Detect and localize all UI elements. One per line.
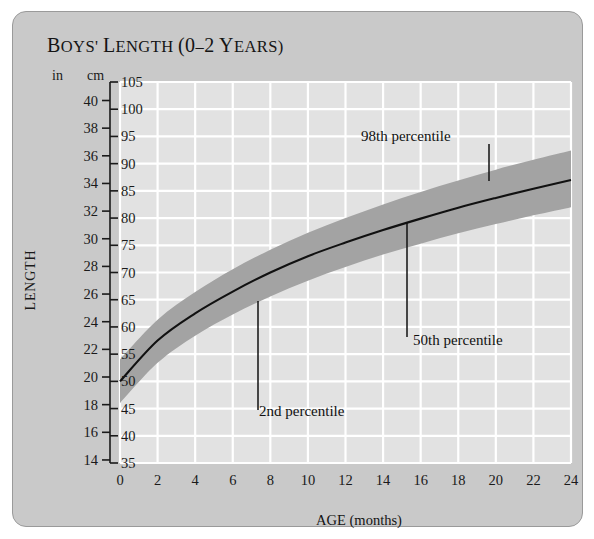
y-tick-inches: 36 bbox=[84, 148, 99, 164]
y-tick-cm: 60 bbox=[121, 319, 136, 335]
y-tick-cm: 80 bbox=[121, 210, 136, 226]
y-tick-inches: 20 bbox=[84, 369, 99, 385]
x-axis-ticks: 024681012141618202224 bbox=[116, 472, 579, 488]
y-tick-cm: 105 bbox=[121, 74, 143, 90]
y-tick-inches: 22 bbox=[84, 341, 99, 357]
y-tick-inches: 24 bbox=[84, 314, 99, 330]
y-tick-cm: 40 bbox=[121, 428, 136, 444]
growth-chart: 1051009590858075706560555045403540383634… bbox=[13, 12, 584, 528]
y-tick-cm: 45 bbox=[121, 401, 136, 417]
y-tick-cm: 85 bbox=[121, 183, 136, 199]
chart-card: BOYS' LENGTH (0–2 YEARS) in cm LENGTH AG… bbox=[12, 11, 583, 527]
x-tick: 4 bbox=[192, 472, 200, 488]
x-tick: 8 bbox=[267, 472, 274, 488]
y-tick-inches: 34 bbox=[84, 175, 99, 191]
y-tick-inches: 32 bbox=[84, 203, 99, 219]
y-tick-inches: 16 bbox=[84, 424, 99, 440]
x-tick: 2 bbox=[154, 472, 161, 488]
y-tick-cm: 35 bbox=[121, 455, 136, 471]
y-axis-ticks: 1051009590858075706560555045403540383634… bbox=[84, 74, 143, 471]
annotation-label: 50th percentile bbox=[413, 332, 503, 348]
y-tick-inches: 40 bbox=[84, 93, 99, 109]
x-tick: 14 bbox=[376, 472, 391, 488]
x-tick: 0 bbox=[116, 472, 123, 488]
y-tick-cm: 75 bbox=[121, 237, 136, 253]
y-tick-cm: 90 bbox=[121, 156, 136, 172]
y-tick-inches: 18 bbox=[84, 397, 99, 413]
y-tick-cm: 50 bbox=[121, 373, 136, 389]
x-tick: 20 bbox=[489, 472, 504, 488]
x-tick: 18 bbox=[451, 472, 466, 488]
x-tick: 16 bbox=[413, 472, 428, 488]
x-tick: 10 bbox=[301, 472, 316, 488]
x-tick: 22 bbox=[526, 472, 541, 488]
x-tick: 6 bbox=[229, 472, 236, 488]
y-tick-cm: 65 bbox=[121, 292, 136, 308]
y-tick-inches: 28 bbox=[84, 258, 99, 274]
y-tick-inches: 30 bbox=[84, 231, 99, 247]
annotation-label: 2nd percentile bbox=[259, 403, 345, 419]
y-tick-cm: 55 bbox=[121, 346, 136, 362]
y-tick-cm: 95 bbox=[121, 128, 136, 144]
y-tick-inches: 26 bbox=[84, 286, 99, 302]
annotation-label: 98th percentile bbox=[361, 128, 451, 144]
y-tick-inches: 38 bbox=[84, 120, 99, 136]
x-tick: 24 bbox=[564, 472, 579, 488]
y-tick-cm: 100 bbox=[121, 101, 143, 117]
y-tick-inches: 14 bbox=[84, 452, 99, 468]
y-tick-cm: 70 bbox=[121, 265, 136, 281]
x-tick: 12 bbox=[338, 472, 353, 488]
